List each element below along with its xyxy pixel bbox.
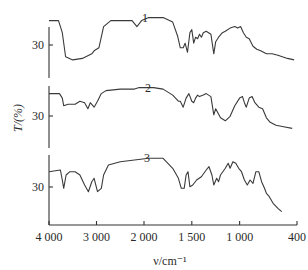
x-axis-title: ν/cm⁻¹	[153, 254, 187, 268]
spectrum-curve-3	[49, 158, 282, 211]
y-tick-label-2: 30	[32, 109, 44, 123]
spectra-curves	[49, 18, 294, 212]
y-axis-title: T/(%)	[11, 104, 25, 132]
x-tick-label: 2 000	[131, 230, 158, 244]
ir-spectra-chart: 30 30 30 T/(%) 4 0003 0002 0001 5001 000…	[0, 0, 308, 270]
x-tick-label: 400	[288, 230, 306, 244]
curve-label-3: 3	[144, 151, 150, 165]
x-tick-label: 3 000	[83, 230, 110, 244]
curve-label-1: 1	[142, 11, 148, 25]
y-axis-segments	[49, 27, 53, 225]
spectrum-curve-1	[49, 18, 294, 60]
spectrum-curve-2	[49, 88, 292, 129]
y-tick-label-3: 30	[32, 180, 44, 194]
x-tick-label: 1 500	[178, 230, 205, 244]
x-tick-label: 1 000	[226, 230, 253, 244]
x-tick-label: 4 000	[36, 230, 63, 244]
y-tick-label-1: 30	[32, 38, 44, 52]
curve-label-2: 2	[145, 81, 151, 95]
